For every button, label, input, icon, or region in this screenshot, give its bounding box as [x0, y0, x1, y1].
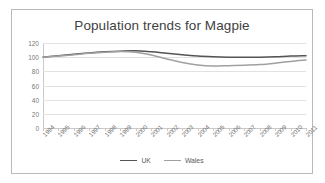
y-axis-tick-label: 60	[32, 82, 39, 89]
y-axis-tick-label: 100	[28, 54, 39, 61]
series-lines	[43, 43, 306, 128]
chart-title: Population trends for Magpie	[12, 18, 312, 33]
legend-swatch-icon	[164, 160, 181, 161]
legend-label: UK	[141, 157, 150, 164]
legend-label: Wales	[185, 157, 204, 164]
legend-item-uk[interactable]: UK	[120, 157, 150, 164]
plot-area: 020406080100120 199419951996199719981999…	[43, 43, 306, 128]
y-axis-tick-label: 0	[35, 125, 39, 132]
legend-swatch-icon	[120, 160, 137, 161]
y-axis-tick-label: 80	[32, 68, 39, 75]
legend-item-wales[interactable]: Wales	[164, 157, 204, 164]
chart-container: Population trends for Magpie 02040608010…	[11, 9, 313, 174]
y-axis-tick-label: 20	[32, 110, 39, 117]
chart-legend: UKWales	[12, 157, 312, 164]
y-axis-tick-label: 120	[28, 40, 39, 47]
y-axis-tick-label: 40	[32, 96, 39, 103]
x-axis-tick-label: 2011	[304, 124, 318, 138]
